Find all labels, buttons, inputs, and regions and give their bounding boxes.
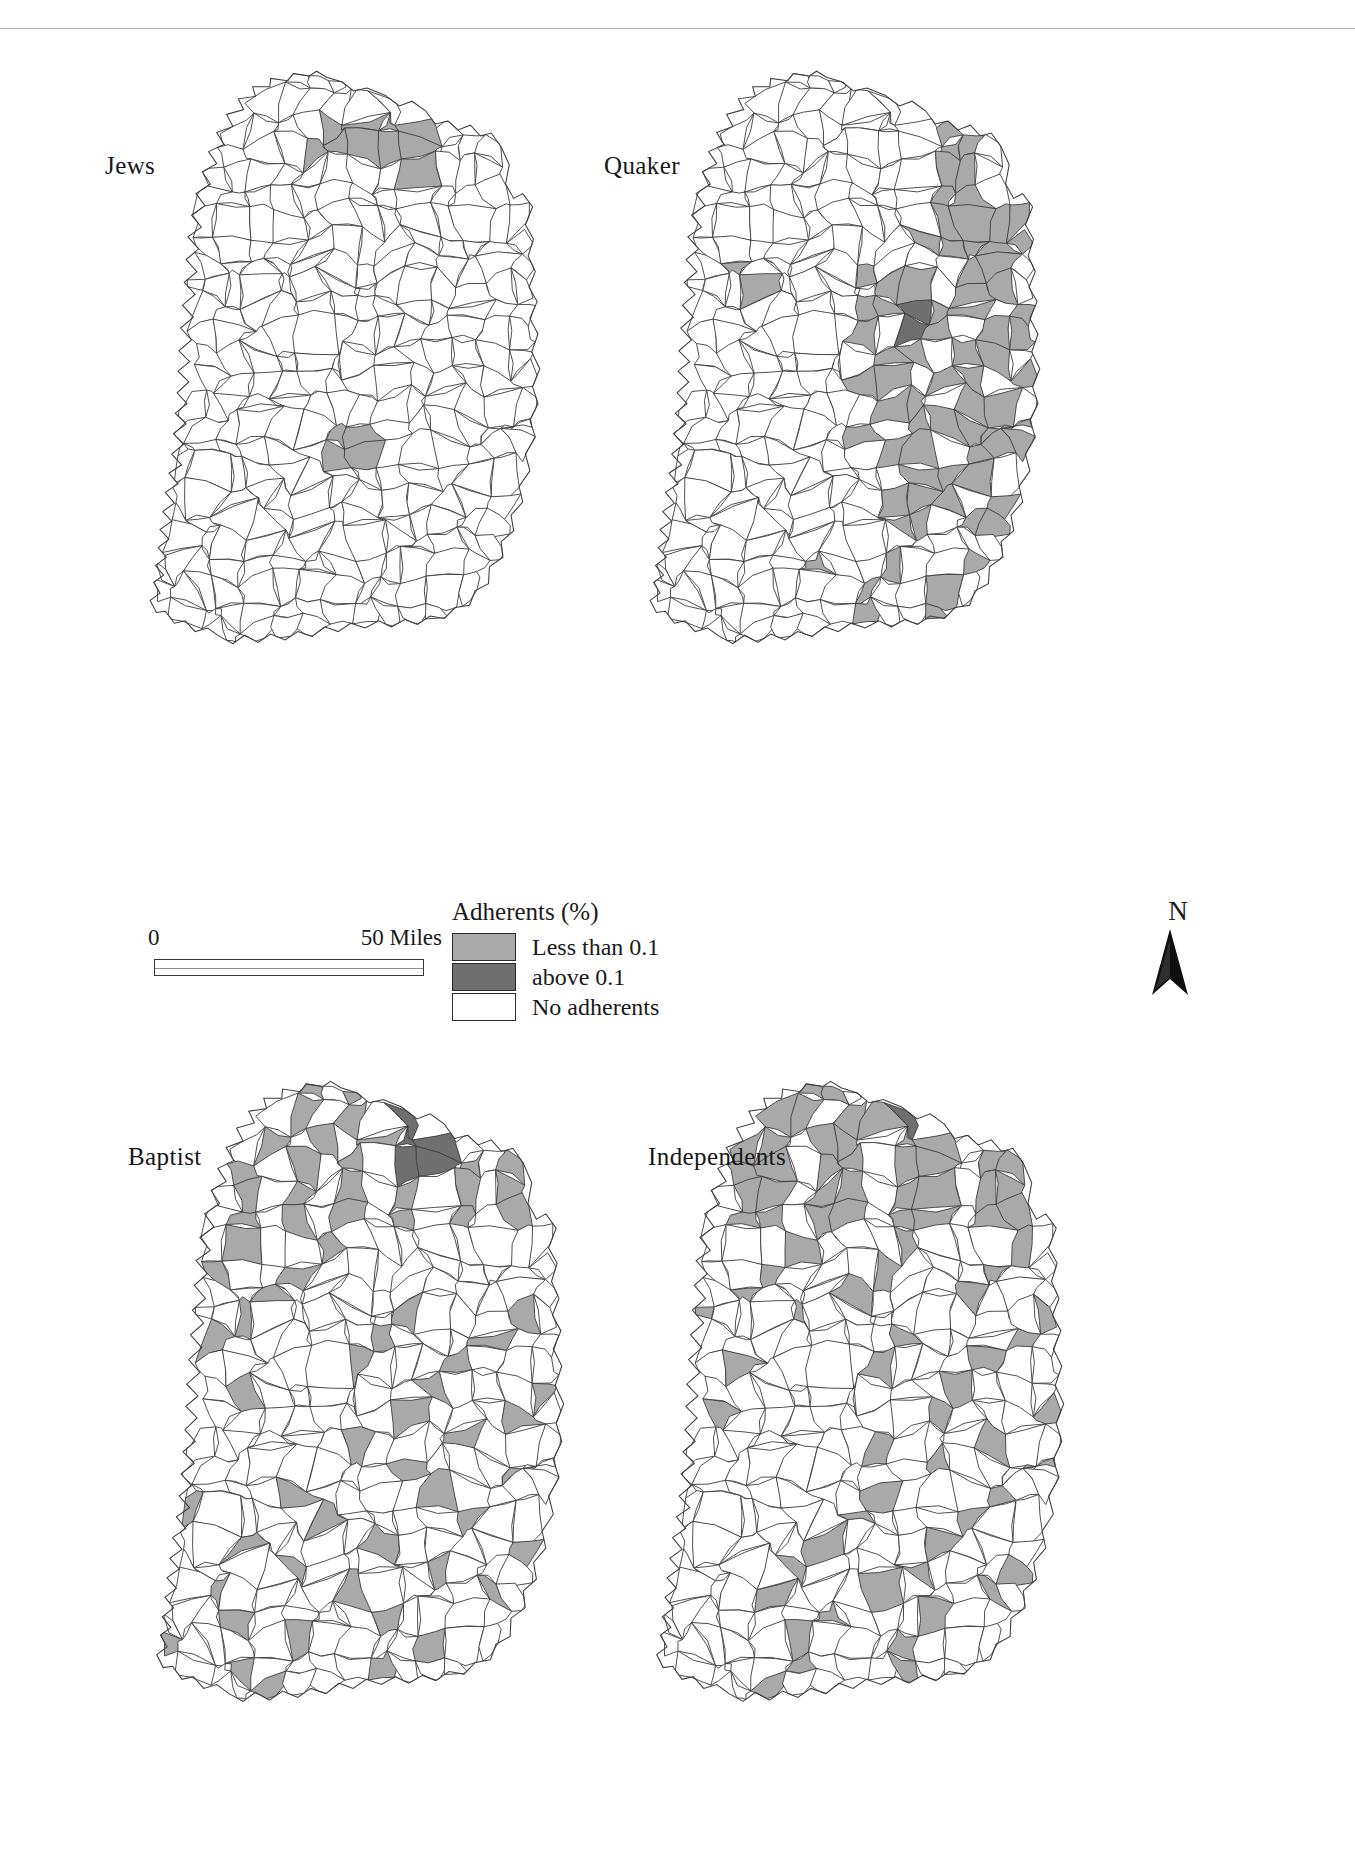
- map-label-quaker: Quaker: [604, 152, 680, 180]
- legend-item-less-than: Less than 0.1: [452, 932, 782, 962]
- legend-swatch-light-gray: [452, 933, 516, 961]
- scale-bar-graphic: [154, 959, 424, 976]
- legend-item-no-adherents: No adherents: [452, 992, 782, 1022]
- legend-label-no-adherents: No adherents: [532, 995, 659, 1019]
- north-arrow: N: [1148, 898, 1208, 999]
- legend-swatch-white: [452, 993, 516, 1021]
- map-panel-jews: [60, 55, 620, 685]
- header-rule: [0, 28, 1355, 29]
- ireland-map-jews[interactable]: [60, 55, 620, 685]
- map-panel-quaker: [560, 55, 1120, 685]
- legend-item-above: above 0.1: [452, 962, 782, 992]
- ireland-map-independents[interactable]: [560, 1060, 1120, 1760]
- legend-label-less-than: Less than 0.1: [532, 935, 659, 959]
- ireland-map-quaker[interactable]: [560, 55, 1120, 685]
- legend-label-above: above 0.1: [532, 965, 625, 989]
- legend-title: Adherents (%): [452, 898, 782, 926]
- map-label-baptist: Baptist: [128, 1143, 202, 1171]
- map-label-independents: Independents: [648, 1143, 786, 1171]
- scale-bar-max-label: 50 Miles: [361, 925, 442, 951]
- map-label-jews: Jews: [105, 152, 155, 180]
- map-panel-independents: [560, 1060, 1120, 1760]
- north-arrow-letter: N: [1148, 898, 1208, 925]
- scale-bar: 0 50 Miles: [148, 925, 438, 976]
- legend-swatch-dark-gray: [452, 963, 516, 991]
- legend: Adherents (%) Less than 0.1 above 0.1 No…: [452, 898, 782, 1022]
- scale-bar-zero-label: 0: [148, 925, 160, 951]
- north-arrow-icon: [1148, 927, 1192, 999]
